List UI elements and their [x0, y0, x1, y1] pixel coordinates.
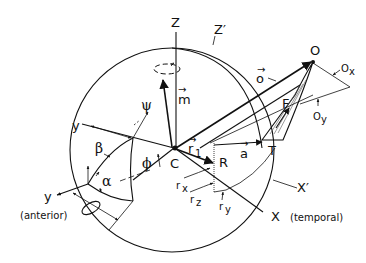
z-prime-label: Z′ — [214, 22, 226, 37]
alpha-label: α — [102, 173, 112, 189]
oy-subscript: y — [321, 114, 327, 125]
a-vector — [214, 142, 262, 145]
psi-label: ψ — [141, 97, 152, 113]
z-axis-label: Z — [171, 15, 180, 30]
o-vector-arrow: → — [257, 64, 265, 75]
oy-label: O — [313, 111, 321, 122]
ry-subscript: y — [225, 204, 231, 215]
center-label: C — [170, 156, 179, 171]
eye-globe-diagram: Z m → Z′ y β ψ ϕ α y (anterior) C r → 1 — [0, 0, 366, 263]
r-subscript: 1 — [195, 148, 201, 159]
rz-label: r — [190, 194, 195, 205]
y-axis-lower-label: y — [44, 189, 52, 204]
y-axis-lower — [57, 184, 88, 195]
rz-subscript: z — [196, 197, 201, 208]
rx-subscript: x — [182, 183, 188, 194]
ox-label: O — [341, 63, 349, 74]
vertical-meridian — [131, 138, 134, 201]
anterior-label: (anterior) — [20, 210, 68, 221]
rx-label: r — [176, 180, 181, 191]
x-prime-label: X′ — [297, 180, 309, 195]
ry-label: r — [219, 201, 224, 212]
beta-label: β — [95, 140, 103, 156]
insertion-label: R — [219, 155, 228, 170]
a-vector-arrow: → — [240, 138, 248, 149]
m-vector-arrow: → — [178, 84, 186, 95]
tangent-label: T — [267, 143, 276, 158]
ox-subscript: x — [349, 66, 355, 77]
temporal-label: (temporal) — [290, 212, 343, 223]
origin-label: O — [310, 43, 320, 58]
phi-label: ϕ — [142, 155, 152, 171]
x-axis-label: X — [271, 209, 280, 224]
y-axis-upper-label: y — [72, 118, 80, 133]
m-vector — [163, 80, 172, 147]
rotation-ellipse-lower-icon — [80, 199, 102, 218]
